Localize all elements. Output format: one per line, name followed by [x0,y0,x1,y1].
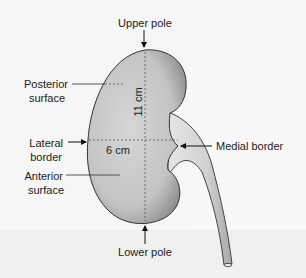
kidney-diagram: 11 cm Upper pole Posterior surface Later… [0,0,306,278]
anterior-surface-label-2: surface [6,183,64,197]
anterior-surface-label-1: Anterior [6,169,63,183]
width-measurement: 6 cm [106,143,130,157]
lateral-border-label-1: Lateral [10,136,63,150]
kidney-body [87,50,186,224]
upper-pole-label: Upper pole [114,16,176,30]
posterior-surface-label-1: Posterior [10,77,68,91]
lateral-border-label-2: border [10,150,62,164]
lower-pole-label: Lower pole [114,245,176,259]
length-measurement: 11 cm [132,87,144,116]
posterior-surface-label-2: surface [10,91,65,105]
medial-border-label: Medial border [216,139,283,153]
